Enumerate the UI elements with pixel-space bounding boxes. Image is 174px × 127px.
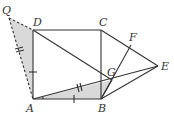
geometry-diagram: Q D C A B F E G: [0, 0, 174, 127]
diagram-canvas: Q D C A B F E G: [0, 0, 174, 127]
label-f: F: [128, 31, 137, 44]
label-a: A: [25, 102, 34, 115]
label-c: C: [99, 16, 108, 29]
label-g: G: [107, 66, 116, 79]
label-e: E: [160, 60, 169, 73]
label-d: D: [32, 16, 42, 29]
label-q: Q: [2, 4, 11, 17]
segment-dg: [33, 30, 112, 80]
label-b: B: [97, 102, 106, 115]
